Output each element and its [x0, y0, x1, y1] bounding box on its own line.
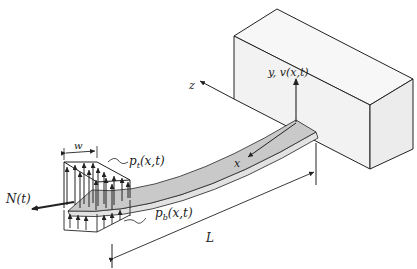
axial-force-arrow [32, 202, 74, 209]
patch-width-label: w [74, 140, 83, 151]
z-axis-label: z [188, 79, 195, 92]
z-axis-arrow [200, 81, 234, 99]
top-load-label: pt(x,t) [129, 154, 165, 170]
top-load-label-group: pt(x,t) [108, 154, 165, 170]
bottom-load-label: pb(x,t) [155, 206, 193, 222]
patch-width-dimension: w [64, 140, 97, 160]
cantilever-beam-diagram: y, v(x,t) z x [0, 0, 417, 269]
top-load-outline [64, 162, 130, 182]
axial-force-label: N(t) [5, 192, 31, 206]
y-axis-label: y, v(x,t) [267, 66, 309, 79]
length-label: L [205, 231, 214, 245]
x-axis-label: x [234, 157, 241, 170]
